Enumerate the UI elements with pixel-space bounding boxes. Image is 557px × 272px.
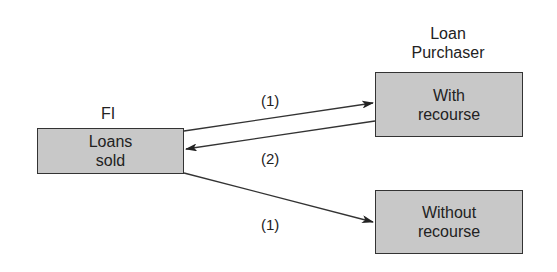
with-recourse-line2: recourse — [418, 105, 480, 124]
edge-label-sale-without-recourse: (1) — [261, 216, 279, 233]
arrow-with-recourse-to-fi — [186, 121, 375, 149]
without-recourse-line1: Without — [422, 203, 476, 222]
loans-sold-line1: Loans — [89, 132, 133, 151]
edge-label-sale-with-recourse: (1) — [261, 92, 279, 109]
without-recourse-line2: recourse — [418, 222, 480, 241]
fi-label: FI — [88, 104, 128, 123]
loans-sold-line2: sold — [96, 151, 125, 170]
edge-label-recourse-return: (2) — [261, 150, 279, 167]
loan-purchaser-line2: Purchaser — [398, 43, 498, 62]
without-recourse-box: Without recourse — [375, 190, 523, 254]
loan-purchaser-label: Loan Purchaser — [398, 24, 498, 62]
loans-sold-box: Loans sold — [37, 128, 184, 174]
arrow-fi-to-without-recourse — [184, 173, 373, 222]
loan-purchaser-line1: Loan — [398, 24, 498, 43]
with-recourse-box: With recourse — [375, 72, 523, 137]
with-recourse-line1: With — [433, 86, 465, 105]
